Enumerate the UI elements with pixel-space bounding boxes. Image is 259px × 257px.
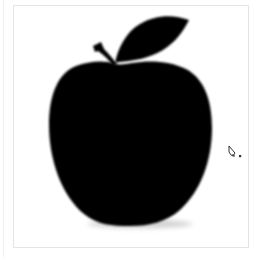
- pen-tool-icon: [226, 144, 244, 162]
- apple-leaf[interactable]: [115, 16, 189, 63]
- apple-body[interactable]: [49, 61, 212, 226]
- artwork-canvas[interactable]: [0, 0, 259, 257]
